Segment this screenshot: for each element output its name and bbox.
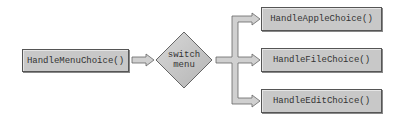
- node-label: HandleAppleChoice(): [270, 14, 373, 24]
- handle-menu-choice-node: HandleMenuChoice(): [22, 49, 129, 72]
- decision-label-line1: switch: [164, 50, 204, 60]
- handle-edit-choice-node: HandleEditChoice(): [261, 89, 382, 113]
- handle-apple-choice-node: HandleAppleChoice(): [261, 7, 382, 31]
- node-label: HandleMenuChoice(): [27, 56, 124, 66]
- switch-menu-decision: switch menu: [164, 50, 204, 70]
- decision-label-line2: menu: [164, 60, 204, 70]
- node-label: HandleFileChoice(): [273, 55, 370, 65]
- handle-file-choice-node: HandleFileChoice(): [261, 48, 382, 72]
- node-label: HandleEditChoice(): [273, 96, 370, 106]
